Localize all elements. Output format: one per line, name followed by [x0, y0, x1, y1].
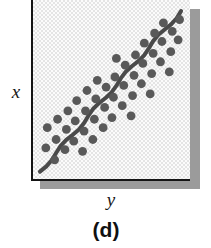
scatter-point: [118, 101, 127, 110]
scatter-point: [150, 29, 159, 38]
scatter-point: [159, 19, 168, 28]
y-axis-label: y: [100, 190, 122, 209]
scatter-point: [140, 39, 149, 48]
scatter-point: [71, 117, 80, 126]
scatter-point: [165, 68, 174, 77]
scatter-point: [149, 49, 158, 58]
scatter-point: [50, 155, 59, 164]
x-axis-label: x: [6, 82, 26, 101]
scatter-point: [111, 73, 120, 82]
scatter-point: [138, 59, 147, 68]
scatter-point: [53, 115, 62, 124]
scatter-point: [91, 95, 100, 104]
scatter-point: [108, 113, 117, 122]
scatter-point: [174, 35, 183, 44]
scatter-point: [69, 137, 78, 146]
scatter-point: [128, 91, 137, 100]
scatter-point: [102, 83, 111, 92]
scatter-point: [109, 93, 118, 102]
scatter-point: [146, 89, 155, 98]
scatter-point: [137, 79, 146, 88]
scatter-point: [112, 54, 121, 63]
scatter-point: [121, 61, 130, 70]
scatter-point: [90, 115, 99, 124]
scatter-point: [156, 57, 165, 66]
scatter-point: [158, 37, 167, 46]
x-axis-rule: [31, 0, 33, 181]
panel-caption: (d): [66, 219, 146, 240]
scatter-point: [41, 144, 50, 153]
scatter-point: [61, 145, 70, 154]
scatter-point: [88, 135, 97, 144]
scatter-point: [78, 147, 87, 156]
scatter-point: [72, 96, 81, 105]
scatter-point: [147, 69, 156, 78]
scatter-plot-figure-panel-d: x y (d): [0, 0, 211, 248]
scatter-point: [93, 76, 102, 85]
scatter-point: [130, 71, 139, 80]
scatter-point: [80, 127, 89, 136]
scatter-point: [99, 123, 108, 132]
scatter-plot-canvas: [31, 0, 190, 181]
scatter-point: [83, 86, 92, 95]
y-axis-rule: [31, 179, 190, 181]
scatter-point: [100, 103, 109, 112]
scatter-point: [81, 106, 90, 115]
scatter-point: [52, 135, 61, 144]
scatter-point: [63, 106, 72, 115]
scatter-point: [168, 27, 177, 36]
scatter-point: [127, 111, 136, 120]
scatter-point: [43, 123, 52, 132]
scatter-point: [131, 51, 140, 60]
scatter-point: [166, 47, 175, 56]
plot-area: [31, 0, 190, 181]
scatter-point: [62, 125, 71, 134]
scatter-point: [119, 81, 128, 90]
scatter-point: [175, 15, 184, 24]
